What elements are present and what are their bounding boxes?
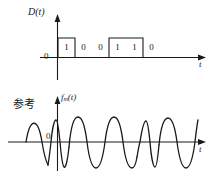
bottom-x-axis-label: t: [199, 145, 202, 154]
bit-label: 1: [128, 43, 142, 52]
waveform-figure: D(t) 0 t 1 0 0 1 1 0: [0, 0, 220, 186]
bit-label: 1: [60, 43, 74, 52]
bit-label: 0: [77, 43, 91, 52]
bit-label: 0: [145, 43, 159, 52]
top-origin-label: 0: [44, 52, 49, 61]
top-y-axis-label: D(t): [28, 7, 45, 17]
top-x-axis-label: t: [199, 60, 202, 69]
bottom-y-axis-label: fm(t): [61, 93, 76, 102]
bottom-origin-label: 0: [46, 132, 51, 141]
top-x-axis: [40, 55, 206, 61]
reference-annotation: 参考: [13, 99, 35, 110]
bit-label: 1: [111, 43, 125, 52]
bit-label: 0: [94, 43, 108, 52]
